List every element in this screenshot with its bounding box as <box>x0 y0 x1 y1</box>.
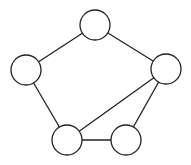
node-bottom-left <box>52 125 82 155</box>
graph-diagram <box>0 0 191 165</box>
nodes-layer <box>11 10 181 155</box>
node-bottom-right <box>111 125 141 155</box>
node-left <box>11 55 41 85</box>
edges-layer <box>26 25 166 140</box>
node-right <box>151 54 181 84</box>
node-top <box>80 10 110 40</box>
